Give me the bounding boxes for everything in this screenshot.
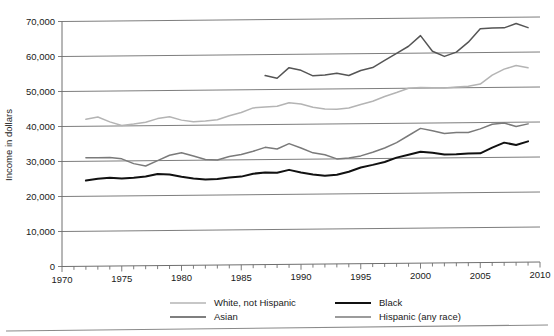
x-tick-label: 1990 [290, 271, 311, 282]
y-tick-label: 10,000 [26, 226, 55, 237]
chart-background [0, 0, 554, 336]
x-tick-label: 1980 [171, 272, 192, 283]
y-tick-label: 30,000 [26, 156, 55, 167]
x-tick-label: 2000 [410, 270, 431, 281]
y-tick-label: 20,000 [26, 191, 55, 202]
legend-label: White, not Hispanic [214, 297, 296, 308]
x-tick-label: 1985 [231, 272, 252, 283]
legend-label: Hispanic (any race) [379, 311, 461, 322]
legend-label: Black [379, 297, 402, 308]
y-axis-title: Income in dollars [3, 109, 14, 181]
y-tick-label: 0 [50, 261, 55, 272]
x-tick-label: 2005 [470, 270, 491, 281]
legend-label: Asian [214, 311, 238, 322]
y-tick-label: 70,000 [26, 16, 55, 27]
income-by-race-line-chart: Income in dollars 010,00020,00030,00040,… [0, 0, 554, 336]
y-tick-label: 60,000 [26, 51, 55, 62]
y-tick-label: 40,000 [26, 121, 55, 132]
x-tick-label: 2010 [529, 269, 550, 280]
x-tick-label: 1970 [51, 274, 72, 285]
x-tick-label: 1995 [350, 271, 371, 282]
x-tick-label: 1975 [111, 273, 132, 284]
y-tick-label: 50,000 [26, 86, 55, 97]
